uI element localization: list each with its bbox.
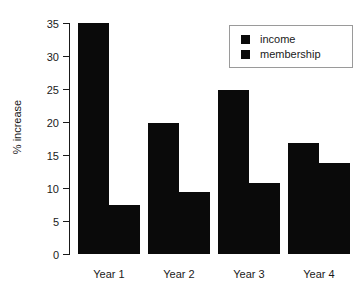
- y-axis-tick-label: 0: [53, 249, 59, 260]
- bar-income: [148, 123, 179, 254]
- y-axis-tick-label: 10: [47, 183, 59, 194]
- legend-label-membership: membership: [260, 49, 321, 60]
- bar-income: [288, 143, 319, 254]
- bar-group: [78, 23, 140, 254]
- x-axis-label: Year 3: [218, 268, 280, 280]
- bar-chart-figure: % increase 05101520253035 Year 1Year 2Ye…: [0, 0, 359, 299]
- bar-income: [78, 23, 109, 254]
- y-axis-tick: 5: [63, 221, 70, 222]
- y-axis-tick: 30: [63, 56, 70, 57]
- y-axis-tick: 0: [63, 254, 70, 255]
- legend-label-income: income: [260, 34, 295, 45]
- y-axis-tick: 25: [63, 89, 70, 90]
- bar-membership: [179, 192, 210, 254]
- y-axis-tick: 10: [63, 188, 70, 189]
- y-axis-title-label: % increase: [11, 100, 23, 154]
- x-axis-label: Year 1: [78, 268, 140, 280]
- y-axis-tick: 35: [63, 23, 70, 24]
- y-axis-tick-label: 15: [47, 150, 59, 161]
- y-axis-tick-label: 30: [47, 51, 59, 62]
- y-axis-tick-label: 25: [47, 84, 59, 95]
- y-axis-tick-label: 20: [47, 117, 59, 128]
- y-axis-tick-label: 35: [47, 18, 59, 29]
- legend-entry-income: income: [241, 32, 295, 46]
- legend-swatch-icon: [241, 50, 250, 59]
- y-axis-tick-label: 5: [53, 216, 59, 227]
- x-axis-label: Year 4: [288, 268, 350, 280]
- bar-membership: [109, 205, 140, 254]
- bar-group: [148, 23, 210, 254]
- x-axis-label: Year 2: [148, 268, 210, 280]
- bar-income: [218, 90, 249, 254]
- y-axis-tick: 20: [63, 122, 70, 123]
- legend-swatch-icon: [241, 35, 250, 44]
- chart-legend: income membership: [229, 25, 353, 68]
- y-axis-title: % increase: [8, 0, 26, 254]
- legend-entry-membership: membership: [241, 47, 321, 61]
- bar-membership: [319, 163, 350, 254]
- y-axis-tick: 15: [63, 155, 70, 156]
- bar-membership: [249, 183, 280, 254]
